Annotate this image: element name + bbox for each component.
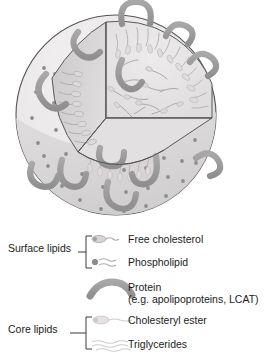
- cholesteryl-ester-icon: [93, 316, 132, 324]
- legend-group-core-lipids: Core lipids Cholesteryl ester Triglyceri…: [8, 314, 207, 351]
- legend-label-triglycerides: Triglycerides: [128, 338, 187, 350]
- triglycerides-icon: [92, 341, 130, 352]
- phospholipid-icon: [92, 259, 116, 267]
- legend-group-label-surface-lipids: Surface lipids: [8, 242, 71, 254]
- legend-label-protein: Protein: [128, 281, 161, 293]
- legend-label-cholesteryl-ester: Cholesteryl ester: [128, 314, 207, 326]
- legend: Surface lipids Free cholesterol Phosphol…: [8, 233, 259, 351]
- lipoprotein-diagram: Surface lipids Free cholesterol Phosphol…: [0, 0, 277, 357]
- free-cholesterol-icon: [92, 235, 119, 242]
- legend-label-free-cholesterol: Free cholesterol: [128, 233, 203, 245]
- legend-sublabel-protein: (e.g. apolipoproteins, LCAT): [128, 293, 259, 305]
- protein-icon: [90, 282, 132, 296]
- legend-label-phospholipid: Phospholipid: [128, 256, 188, 268]
- legend-bracket-surface-lipids: [86, 236, 92, 268]
- legend-bracket-core-lipids: [86, 317, 92, 349]
- legend-group-protein: Protein (e.g. apolipoproteins, LCAT): [90, 281, 259, 305]
- lipoprotein-particle: [16, 2, 220, 220]
- legend-group-surface-lipids: Surface lipids Free cholesterol Phosphol…: [8, 233, 203, 268]
- legend-group-label-core-lipids: Core lipids: [8, 323, 58, 335]
